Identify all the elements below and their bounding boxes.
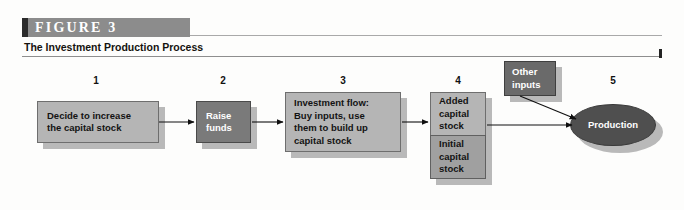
step-number-5: 5 — [601, 75, 625, 87]
node-production: Production — [570, 104, 656, 146]
node-label-decide: Decide to increase the capital stock — [47, 110, 131, 135]
step-number-1: 1 — [84, 75, 108, 87]
node-investment-flow: Investment flow: Buy inputs, use them to… — [285, 92, 401, 152]
node-label-investment-flow: Investment flow: Buy inputs, use them to… — [294, 97, 369, 147]
step-number-4: 4 — [446, 75, 470, 87]
node-other-inputs: Other inputs — [504, 61, 556, 96]
node-decide-to-increase-capital-stock: Decide to increase the capital stock — [37, 101, 159, 143]
step-number-2: 2 — [211, 75, 235, 87]
node-label-added-capital-stock: Added capital stock — [439, 95, 469, 133]
step-number-3: 3 — [331, 75, 355, 87]
node-initial-capital-stock: Initial capital stock — [430, 135, 486, 179]
node-label-initial-capital-stock: Initial capital stock — [439, 138, 469, 176]
node-raise-funds: Raise funds — [196, 101, 251, 143]
node-added-capital-stock: Added capital stock — [430, 92, 486, 136]
node-label-other-inputs: Other inputs — [512, 66, 541, 91]
figure-panel: FIGURE 3 The Investment Production Proce… — [0, 0, 684, 210]
node-label-raise-funds: Raise funds — [206, 110, 232, 135]
node-label-production: Production — [588, 119, 638, 132]
process-diagram: 1 2 3 4 5 Decide to increase the capital… — [0, 0, 684, 210]
